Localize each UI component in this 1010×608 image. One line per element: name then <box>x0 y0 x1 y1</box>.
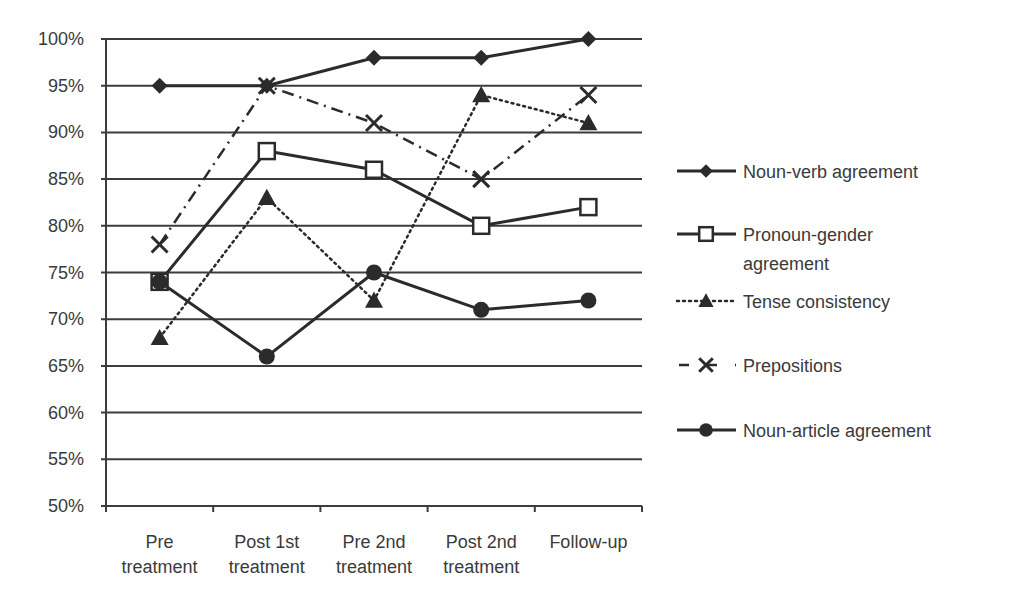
y-tick-label: 60% <box>48 403 84 423</box>
triangle-marker <box>365 292 383 308</box>
legend-label: Noun-article agreement <box>743 421 931 441</box>
circle-marker <box>366 265 382 281</box>
y-tick-label: 55% <box>48 449 84 469</box>
series-noun-article-agreement <box>152 265 597 365</box>
triangle-marker <box>258 189 276 205</box>
x-tick-label: treatment <box>122 557 198 577</box>
legend-label: Tense consistency <box>743 292 890 312</box>
legend-item-pronoun-gender-agreement: Pronoun-genderagreement <box>677 225 873 274</box>
legend-label: Pronoun-gender <box>743 225 873 245</box>
diamond-marker <box>473 50 489 66</box>
legend: Noun-verb agreementPronoun-genderagreeme… <box>677 162 931 441</box>
x-marker <box>580 87 596 103</box>
circle-marker <box>699 423 713 437</box>
x-tick-label: treatment <box>229 557 305 577</box>
diamond-marker <box>366 50 382 66</box>
x-tick-label: Post 1st <box>234 532 299 552</box>
y-tick-label: 70% <box>48 309 84 329</box>
x-tick-label: treatment <box>443 557 519 577</box>
y-tick-label: 50% <box>48 496 84 516</box>
diamond-marker <box>152 78 168 94</box>
square-marker <box>366 162 382 178</box>
y-tick-label: 75% <box>48 263 84 283</box>
y-tick-label: 85% <box>48 169 84 189</box>
circle-marker <box>259 349 275 365</box>
legend-item-prepositions: Prepositions <box>679 356 842 376</box>
legend-item-noun-verb-agreement: Noun-verb agreement <box>677 162 918 182</box>
square-marker <box>473 218 489 234</box>
y-tick-label: 100% <box>38 29 84 49</box>
y-tick-label: 95% <box>48 76 84 96</box>
legend-item-noun-article-agreement: Noun-article agreement <box>677 421 931 441</box>
circle-marker <box>473 302 489 318</box>
x-tick-label: Pre <box>146 532 174 552</box>
plot-series <box>151 31 598 365</box>
x-marker <box>152 236 168 252</box>
circle-marker <box>580 293 596 309</box>
y-tick-label: 80% <box>48 216 84 236</box>
square-marker <box>699 227 713 241</box>
line-chart: 50%55%60%65%70%75%80%85%90%95%100% Pretr… <box>0 0 1010 608</box>
diamond-marker <box>699 164 713 178</box>
x-tick-label: treatment <box>336 557 412 577</box>
x-tick-label: Post 2nd <box>446 532 517 552</box>
y-tick-label: 90% <box>48 122 84 142</box>
diamond-marker <box>580 31 596 47</box>
triangle-marker <box>151 329 169 345</box>
series-line <box>160 273 589 357</box>
legend-label: Prepositions <box>743 356 842 376</box>
legend-item-tense-consistency: Tense consistency <box>677 292 890 312</box>
x-tick-label: Follow-up <box>549 532 627 552</box>
x-axis: PretreatmentPost 1sttreatmentPre 2ndtrea… <box>106 506 642 577</box>
square-marker <box>580 199 596 215</box>
triangle-marker <box>472 86 490 102</box>
x-marker <box>366 115 382 131</box>
y-axis: 50%55%60%65%70%75%80%85%90%95%100% <box>38 29 106 516</box>
circle-marker <box>152 274 168 290</box>
legend-label: Noun-verb agreement <box>743 162 918 182</box>
series-noun-verb-agreement <box>152 31 597 94</box>
x-tick-label: Pre 2nd <box>342 532 405 552</box>
y-tick-label: 65% <box>48 356 84 376</box>
legend-label: agreement <box>743 254 829 274</box>
square-marker <box>259 143 275 159</box>
